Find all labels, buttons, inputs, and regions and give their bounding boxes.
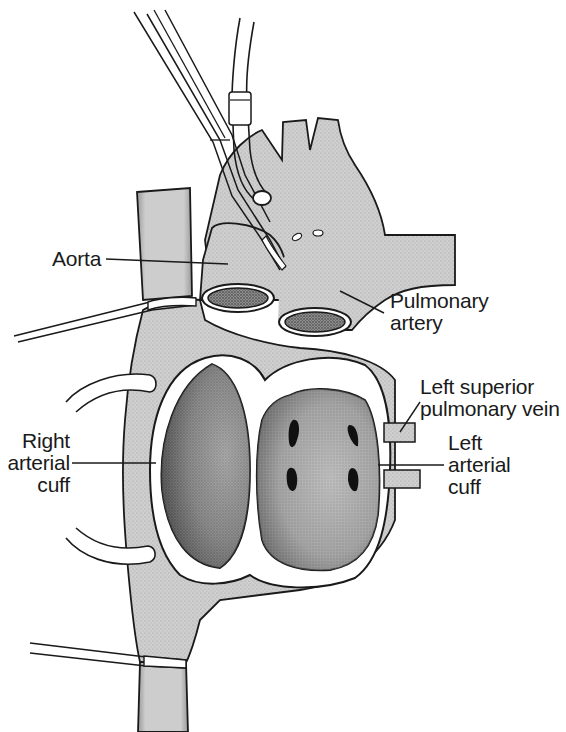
surgical-heart-diagram: Aorta Pulmonary artery Left superior pul… bbox=[0, 0, 566, 732]
label-left-arterial-cuff: Left arterial cuff bbox=[448, 432, 511, 498]
aorta-lumen bbox=[208, 288, 268, 308]
inferior-vena-cava bbox=[138, 662, 188, 732]
superior-vena-cava bbox=[137, 188, 192, 300]
label-pulmonary-artery: Pulmonary artery bbox=[390, 290, 489, 334]
label-aorta: Aorta bbox=[52, 248, 101, 270]
label-right-arterial-cuff: Right arterial cuff bbox=[0, 430, 70, 496]
label-left-superior-pulmonary-vein: Left superior pulmonary vein bbox=[420, 376, 560, 420]
pulmonary-artery-lumen bbox=[285, 312, 345, 332]
heart-illustration bbox=[0, 0, 566, 732]
left-atrium-interior bbox=[257, 389, 380, 570]
pulmonary-artery bbox=[278, 243, 355, 336]
